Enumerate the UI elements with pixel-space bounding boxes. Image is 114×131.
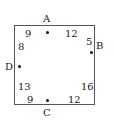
segment-bottom-left: 9 (27, 95, 33, 105)
point-d-label: D (5, 62, 13, 72)
segment-right-top: 5 (86, 37, 92, 47)
point-c-label: C (43, 108, 51, 118)
point-d-dot (18, 65, 21, 68)
point-b-dot (90, 51, 93, 54)
segment-top-right: 12 (65, 29, 78, 39)
segment-bottom-right: 12 (68, 95, 81, 105)
point-c-dot (46, 99, 49, 102)
point-a-dot (46, 31, 49, 34)
point-b-label: B (96, 41, 103, 51)
segment-right-bottom: 16 (81, 82, 94, 92)
segment-left-top: 8 (18, 42, 24, 52)
segment-left-bottom: 13 (18, 82, 31, 92)
segment-top-left: 9 (25, 29, 31, 39)
point-a-label: A (43, 14, 50, 24)
